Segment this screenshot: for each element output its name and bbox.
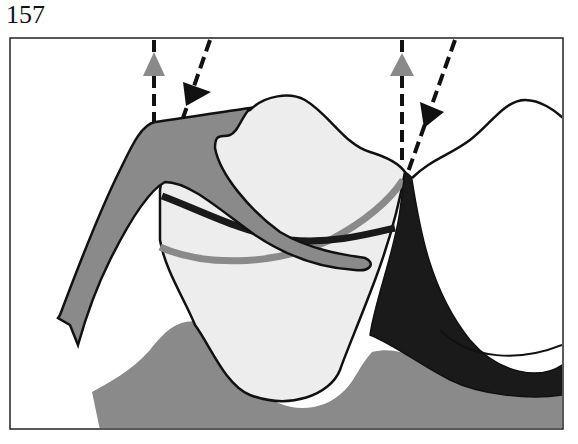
dental-illustration [0, 0, 578, 444]
